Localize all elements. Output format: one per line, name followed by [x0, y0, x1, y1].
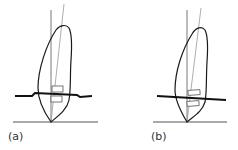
panel-a — [13, 4, 98, 122]
bracket-upper-b — [188, 90, 200, 96]
panel-b — [153, 8, 227, 122]
bracket-upper-a — [52, 86, 63, 92]
tooth-outline-b — [175, 28, 208, 122]
bracket-lower-b — [187, 101, 199, 107]
archwire-straight-b — [157, 96, 226, 100]
panel-label-b: (b) — [151, 131, 167, 142]
bracket-lower-a — [51, 96, 62, 102]
tooth-outline-a — [38, 26, 72, 122]
tooth-long-axis-a — [51, 4, 64, 122]
panel-label-a: (a) — [8, 131, 23, 142]
diagram-canvas — [0, 0, 238, 150]
